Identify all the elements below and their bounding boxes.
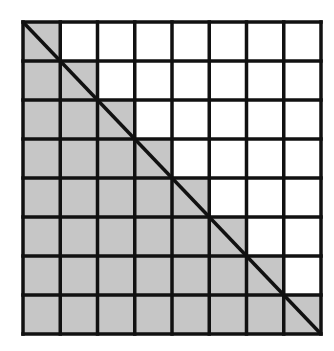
unshaded-cell	[172, 61, 209, 100]
shaded-cell	[60, 256, 97, 295]
unshaded-cell	[98, 22, 135, 61]
unshaded-cell	[98, 61, 135, 100]
shaded-cell	[209, 256, 246, 295]
shaded-cell	[172, 256, 209, 295]
shaded-cell	[135, 217, 172, 256]
unshaded-cell	[247, 217, 284, 256]
unshaded-cell	[284, 256, 321, 295]
shaded-cell	[135, 256, 172, 295]
unshaded-cell	[209, 22, 246, 61]
unshaded-cell	[209, 178, 246, 217]
shaded-cell	[60, 100, 97, 139]
unshaded-cell	[284, 100, 321, 139]
shaded-cell	[98, 295, 135, 334]
unshaded-cell	[135, 22, 172, 61]
shaded-cell	[135, 295, 172, 334]
shaded-cell	[135, 178, 172, 217]
staircase-grid-diagram	[0, 0, 334, 351]
unshaded-cell	[135, 100, 172, 139]
shaded-cell	[23, 178, 60, 217]
unshaded-cell	[247, 22, 284, 61]
unshaded-cell	[284, 178, 321, 217]
shaded-cell	[98, 139, 135, 178]
unshaded-cell	[172, 139, 209, 178]
shaded-cell	[98, 256, 135, 295]
shaded-cell	[209, 295, 246, 334]
shaded-cell	[23, 256, 60, 295]
unshaded-cell	[209, 139, 246, 178]
unshaded-cell	[284, 61, 321, 100]
shaded-cell	[60, 295, 97, 334]
unshaded-cell	[284, 139, 321, 178]
unshaded-cell	[209, 61, 246, 100]
unshaded-cell	[247, 100, 284, 139]
shaded-cell	[23, 61, 60, 100]
unshaded-cell	[247, 61, 284, 100]
unshaded-cell	[172, 100, 209, 139]
shaded-cell	[247, 295, 284, 334]
shaded-cell	[23, 139, 60, 178]
shaded-cell	[23, 217, 60, 256]
unshaded-cell	[284, 217, 321, 256]
shaded-cell	[98, 217, 135, 256]
shaded-cell	[60, 178, 97, 217]
shaded-cell	[172, 217, 209, 256]
shaded-cell	[172, 295, 209, 334]
unshaded-cell	[60, 22, 97, 61]
unshaded-cell	[247, 178, 284, 217]
unshaded-cell	[135, 61, 172, 100]
shaded-cell	[60, 217, 97, 256]
shaded-cell	[98, 178, 135, 217]
unshaded-cell	[247, 139, 284, 178]
unshaded-cell	[172, 22, 209, 61]
shaded-cell	[23, 100, 60, 139]
shaded-cell	[60, 139, 97, 178]
shaded-cell	[23, 295, 60, 334]
unshaded-cell	[284, 22, 321, 61]
unshaded-cell	[209, 100, 246, 139]
